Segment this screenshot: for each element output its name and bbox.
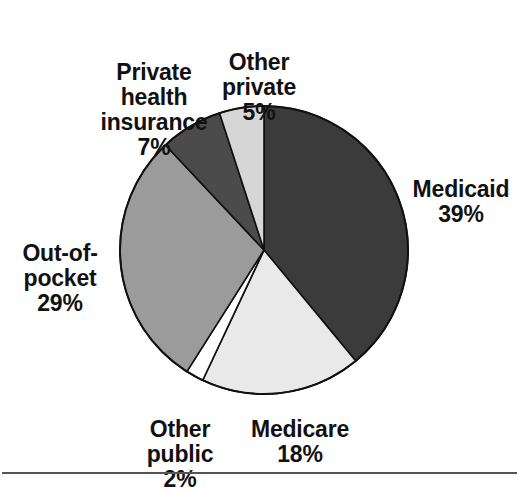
slice-label-name: Private health insurance: [101, 59, 208, 135]
slice-label-medicare: Medicare 18%: [238, 392, 362, 491]
slice-label-other-public: Other public 2%: [131, 392, 229, 491]
slice-label-name: Other private: [222, 49, 296, 100]
slice-label-percent: 5%: [206, 100, 312, 125]
slice-label-out-of-pocket: Out-of- pocket 29%: [4, 216, 116, 341]
slice-label-name: Medicare: [251, 416, 349, 442]
slice-label-name: Other public: [147, 416, 214, 467]
slice-label-percent: 2%: [131, 467, 229, 491]
slice-label-medicaid: Medicaid 39%: [404, 152, 518, 252]
slice-label-name: Out-of- pocket: [22, 240, 97, 291]
slice-label-percent: 39%: [404, 202, 518, 227]
slice-label-percent: 29%: [4, 291, 116, 316]
slice-label-percent: 7%: [92, 135, 216, 160]
slice-label-other-private: Other private 5%: [206, 25, 312, 150]
slice-label-percent: 18%: [238, 442, 362, 467]
bottom-divider-rule: [2, 472, 517, 474]
slice-label-name: Medicaid: [413, 176, 510, 202]
slice-label-private-health-insurance: Private health insurance 7%: [92, 35, 216, 185]
